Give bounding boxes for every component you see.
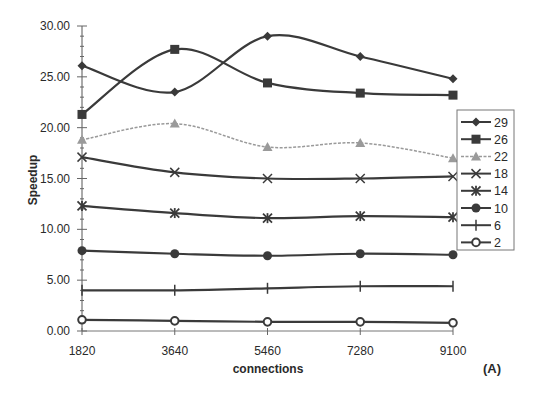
circle-filled-marker <box>170 249 179 258</box>
square-icon <box>472 135 481 144</box>
diamond-marker <box>449 74 458 83</box>
circle-open-marker <box>171 317 179 325</box>
y-tick-label: 0.00 <box>47 324 71 338</box>
legend-label: 18 <box>494 167 508 181</box>
y-tick-label: 20.00 <box>40 121 70 135</box>
y-tick-label: 30.00 <box>40 19 70 33</box>
diamond-marker <box>78 61 87 70</box>
y-tick-label: 10.00 <box>40 222 70 236</box>
x-tick-label: 9100 <box>440 344 467 358</box>
series-10 <box>78 246 458 260</box>
square-marker <box>263 78 272 87</box>
x-tick-label: 1820 <box>69 344 96 358</box>
diamond-marker <box>263 32 272 41</box>
series-14 <box>78 201 458 223</box>
y-tick-label: 15.00 <box>40 172 70 186</box>
square-marker <box>449 91 458 100</box>
circle-open-marker <box>449 319 457 327</box>
speedup-line-chart: 0.005.0010.0015.0020.0025.0030.001820364… <box>0 0 542 401</box>
series-layer <box>77 32 458 327</box>
square-marker <box>356 89 365 98</box>
legend-label: 29 <box>494 116 508 130</box>
triangle-marker <box>77 135 87 144</box>
series-2 <box>78 316 457 327</box>
circle-filled-marker <box>78 246 87 255</box>
series-22 <box>77 119 458 163</box>
legend-label: 2 <box>494 236 501 250</box>
legend-label: 10 <box>494 202 508 216</box>
circle-filled-marker <box>356 249 365 258</box>
y-axis-title: Speedup <box>26 155 40 206</box>
series-line <box>82 157 453 179</box>
x-tick-label: 5460 <box>254 344 281 358</box>
circle-open-marker <box>78 316 86 324</box>
circle-filled-icon <box>472 204 481 213</box>
legend-label: 26 <box>494 133 508 147</box>
series-26 <box>78 45 458 119</box>
circle-open-marker <box>264 318 272 326</box>
axes: 0.005.0010.0015.0020.0025.0030.001820364… <box>40 19 467 358</box>
circle-open-marker <box>356 318 364 326</box>
y-tick-label: 5.00 <box>47 273 71 287</box>
series-6 <box>82 281 453 296</box>
legend-label: 14 <box>494 184 508 198</box>
diamond-marker <box>356 52 365 61</box>
square-marker <box>78 110 87 119</box>
series-18 <box>78 153 458 183</box>
square-marker <box>170 45 179 54</box>
legend-label: 22 <box>494 150 508 164</box>
legend-label: 6 <box>494 219 501 233</box>
circle-filled-marker <box>263 251 272 260</box>
x-axis-title: connections <box>233 362 304 376</box>
x-tick-label: 3640 <box>161 344 188 358</box>
diamond-marker <box>170 88 179 97</box>
y-tick-label: 25.00 <box>40 70 70 84</box>
series-line <box>82 124 453 159</box>
circle-filled-marker <box>449 250 458 259</box>
panel-label: (A) <box>483 361 501 376</box>
circle-open-icon <box>472 239 480 247</box>
x-tick-label: 7280 <box>347 344 374 358</box>
legend: 29262218141062 <box>457 110 514 250</box>
